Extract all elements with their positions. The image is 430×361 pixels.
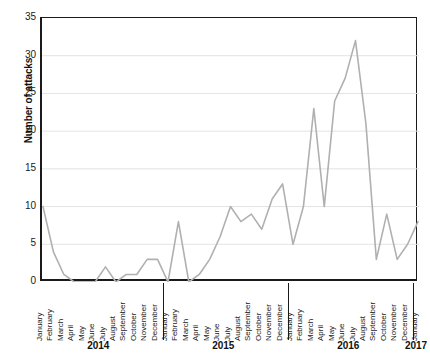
plot-area [40,17,417,281]
x-tick-label: August [109,316,117,341]
x-tick-label: April [192,325,200,341]
y-tick-label: 0 [14,276,36,286]
x-tick-label: October [130,313,138,341]
x-tick-label: May [328,326,336,341]
x-tick-label: February [296,309,304,341]
x-tick-label: January [36,313,44,341]
year-label: 2016 [318,340,378,351]
y-tick-label: 10 [14,201,36,211]
x-tick-label: September [369,302,377,341]
x-tick-label: October [380,313,388,341]
attacks-line [43,41,418,282]
x-tick-label: March [307,319,315,341]
year-label: 2014 [68,340,128,351]
y-tick-label: 35 [14,12,36,22]
x-tick-label: November [265,304,273,341]
x-tick-label: December [276,304,284,341]
x-tick-label: August [234,316,242,341]
year-separator [413,283,414,340]
line-series-svg [42,18,419,282]
x-tick-label: June [88,324,96,341]
x-tick-label: February [46,309,54,341]
year-separator [163,283,164,340]
x-tick-label: December [151,304,159,341]
gridlines [42,56,419,245]
x-axis-year-labels: 2014201520162017 [40,340,417,356]
x-tick-label: March [57,319,65,341]
x-tick-label: July [224,327,232,341]
x-tick-label: November [390,304,398,341]
x-tick-label: May [78,326,86,341]
y-tick-label: 25 [14,87,36,97]
y-tick-label: 30 [14,50,36,60]
x-tick-label: February [171,309,179,341]
x-tick-label: November [140,304,148,341]
x-tick-label: September [244,302,252,341]
y-tick-label: 5 [14,238,36,248]
y-tick-label: 20 [14,125,36,135]
x-tick-label: September [119,302,127,341]
x-tick-label: July [349,327,357,341]
x-tick-label: March [182,319,190,341]
y-tick-label: 15 [14,163,36,173]
x-tick-label: April [67,325,75,341]
y-axis-tick-labels: 05101520253035 [8,0,36,361]
x-tick-label: May [203,326,211,341]
x-tick-label: August [359,316,367,341]
year-separator [288,283,289,340]
year-label: 2015 [193,340,253,351]
x-tick-label: June [213,324,221,341]
x-tick-label: July [99,327,107,341]
year-label: 2017 [386,340,430,351]
chart-container: Number of attacks 05101520253035 January… [0,0,430,361]
x-tick-label: April [317,325,325,341]
x-tick-label: December [401,304,409,341]
x-tick-label: October [255,313,263,341]
x-axis-month-labels: JanuaryFebruaryMarchAprilMayJuneJulyAugu… [40,283,417,341]
x-tick-label: June [338,324,346,341]
